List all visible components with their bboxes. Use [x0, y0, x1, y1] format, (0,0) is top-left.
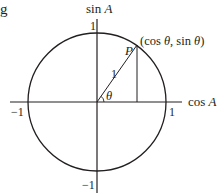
tick-left: −1 — [11, 105, 24, 119]
tick-top: 1 — [90, 19, 96, 33]
angle-label: θ — [106, 89, 112, 103]
cropped-text-fragment: g — [0, 1, 8, 17]
point-label: P — [124, 43, 133, 58]
radius-label: 1 — [111, 67, 117, 81]
unit-circle-diagram: g sin A cos A 1 −1 −1 1 P (cos θ, sin θ)… — [0, 0, 217, 193]
tick-right: 1 — [169, 105, 175, 119]
angle-arc — [101, 96, 104, 102]
point-coordinates: (cos θ, sin θ) — [140, 34, 204, 48]
tick-bottom: −1 — [82, 178, 95, 192]
y-axis-label: sin A — [86, 1, 112, 16]
x-axis-label: cos A — [188, 94, 217, 109]
